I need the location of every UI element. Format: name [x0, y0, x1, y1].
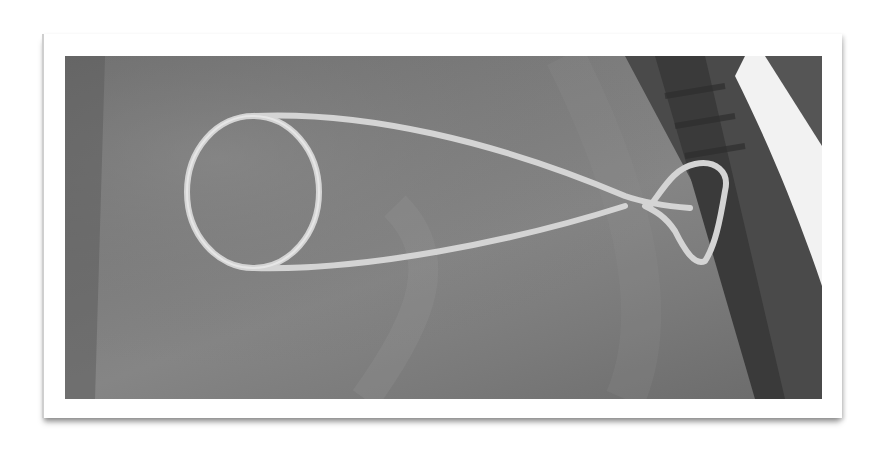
- photo: [65, 56, 822, 399]
- wire-loop-tool-illustration: [65, 56, 822, 399]
- photo-frame: [42, 34, 842, 418]
